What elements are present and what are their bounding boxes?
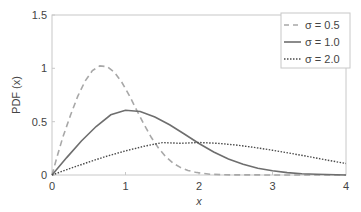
legend-item-sigma-1.0: σ = 1.0 [305, 36, 340, 48]
y-tick-label: 1.5 [32, 9, 47, 21]
legend-item-sigma-2.0: σ = 2.0 [305, 53, 340, 65]
chart-canvas: 0 0.5 1 1.5 0 1 2 3 4 x PDF (x) σ = 0.5 … [0, 0, 361, 212]
x-tick-label: 2 [196, 180, 202, 192]
series-sigma-1.0 [52, 110, 346, 175]
x-axis-label: x [195, 195, 202, 207]
x-tick-label: 3 [269, 180, 275, 192]
y-axis-label: PDF (x) [10, 76, 22, 114]
series-sigma-0.5 [52, 66, 346, 175]
x-tick-label: 4 [343, 180, 349, 192]
y-tick-label: 0 [41, 169, 47, 181]
legend-item-sigma-0.5: σ = 0.5 [305, 19, 340, 31]
y-tick-label: 1 [41, 62, 47, 74]
legend: σ = 0.5 σ = 1.0 σ = 2.0 [281, 13, 350, 68]
x-tick-label: 1 [122, 180, 128, 192]
y-tick-label: 0.5 [32, 116, 47, 128]
series-sigma-2.0 [52, 143, 346, 176]
x-tick-label: 0 [49, 180, 55, 192]
